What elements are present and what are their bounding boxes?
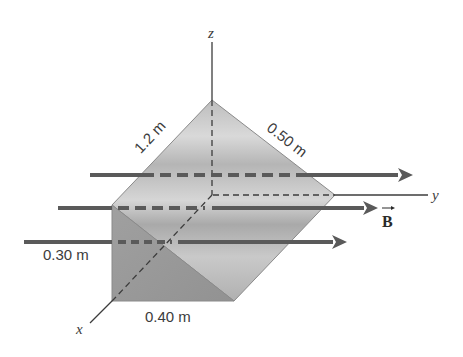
height-label: 0.30 m [43,246,89,263]
field-label: B [382,206,395,230]
slant-edge-label: 1.2 m [131,117,169,156]
base-label: 0.40 m [145,308,191,325]
y-axis-label: y [430,187,439,203]
prism-diagram: z y x B 1.2 m 0.50 m 0.30 m 0.40 m [0,0,463,357]
x-axis-label: x [75,321,83,337]
field-label-text: B [382,213,393,230]
x-axis [90,299,114,323]
z-axis-label: z [207,25,214,41]
